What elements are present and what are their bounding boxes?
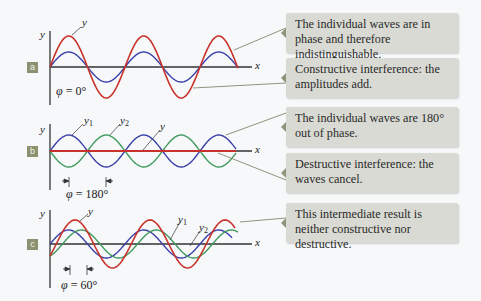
panel-label-a: a (27, 62, 38, 73)
panel-c-phase-markers (63, 265, 94, 275)
panel-c-graph (50, 210, 286, 288)
panel-a-curve-label-y: y (82, 16, 87, 28)
callout-intermediate: This intermediate result is neither cons… (286, 203, 458, 243)
panel-a-callout2-leader (193, 83, 286, 88)
panel-label-c: c (27, 239, 38, 250)
panel-a-x-axis-label: x (255, 59, 260, 71)
panel-b-phase-markers (62, 177, 113, 187)
panel-c-y-axis-label: y (40, 207, 45, 219)
panel-label-b: b (27, 146, 38, 157)
panel-c-curve-label-y: y (88, 205, 93, 217)
panel-b-y-leader (143, 130, 160, 150)
panel-c-curve-label-y2: y2 (199, 221, 208, 235)
panel-a-phase-label: φ = 0° (56, 84, 86, 99)
panel-b-curve-label-y2: y2 (120, 114, 129, 128)
panel-a-y-leader (72, 27, 81, 35)
panel-b-y1-leader (72, 124, 83, 135)
panel-c-callout-leader (240, 218, 286, 222)
callout-out-of-phase: The individual waves are 180° out of pha… (286, 107, 458, 147)
panel-b-y-axis-label: y (40, 123, 45, 135)
panel-b-callout1-leader (226, 113, 286, 135)
panel-b-phase-label: φ = 180° (66, 187, 108, 202)
panel-b-callout2-leader (218, 153, 286, 180)
panel-c-y-leader (80, 214, 88, 221)
panel-b-y2-leader (110, 124, 120, 135)
phi-symbol: φ (56, 84, 63, 98)
panel-b-curve-label-y1: y1 (84, 114, 93, 128)
panel-b-x-axis-label: x (255, 143, 260, 155)
panel-c-phase-label: φ = 60° (61, 278, 97, 293)
panel-b-curve-label-y: y (160, 120, 165, 132)
panel-a-y-axis-label: y (40, 28, 45, 40)
panel-c-curve-label-y1: y1 (178, 213, 187, 227)
callout-destructive: Destructive interference: the waves canc… (286, 153, 458, 193)
callout-in-phase: The individual waves are in phase and th… (286, 13, 458, 53)
callout-constructive: Constructive interference: the amplitude… (286, 58, 458, 98)
panel-c-x-axis-label: x (255, 236, 260, 248)
panel-a-callout1-leader (234, 28, 286, 50)
